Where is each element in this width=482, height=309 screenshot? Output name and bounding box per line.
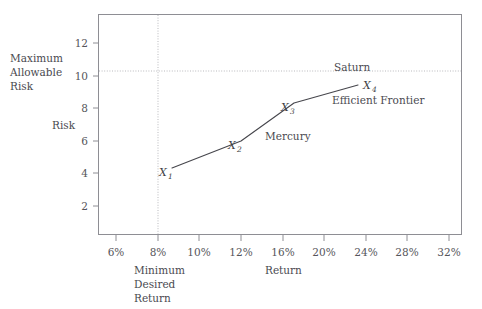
x3-subscript: 3 [290,107,295,116]
x-tick-label-32: 32% [437,246,460,258]
x-tick-label-12: 12% [229,246,252,258]
y-tick-label-12: 12 [75,37,88,49]
x2-label: X [227,139,237,152]
x-tick-label-6: 6% [108,246,125,258]
x1-subscript: 1 [168,172,173,181]
x-axis-ticks [116,235,449,241]
data-point-label-x4: X 4 [362,79,377,94]
x-tick-label-20: 20% [312,246,335,258]
saturn-label: Saturn [334,61,370,73]
x-tick-label-28: 28% [395,246,418,258]
min-return-line-2: Desired [134,278,176,290]
max-risk-line-1: Maximum [10,52,63,64]
data-point-label-x1: X 1 [158,166,173,181]
x-tick-label-16: 16% [271,246,294,258]
y-tick-label-2: 2 [81,200,88,212]
x-tick-label-24: 24% [354,246,377,258]
x4-subscript: 4 [371,85,377,94]
x1-label: X [158,166,168,179]
x3-label: X [280,101,290,114]
y-tick-label-8: 8 [81,102,88,114]
min-return-line-3: Return [134,292,171,304]
y-tick-label-10: 10 [75,70,88,82]
y-tick-label-4: 4 [81,167,88,179]
efficient-frontier-chart: 12 10 8 6 4 2 6% 8% 10% 12% 16% 20% 24% … [0,0,482,309]
max-risk-line-2: Allowable [9,66,62,78]
x-axis-title: Return [265,264,302,276]
min-return-line-1: Minimum [134,264,185,276]
minimum-desired-return-annotation: Minimum Desired Return [134,264,185,304]
plot-frame [99,15,462,235]
efficient-frontier-label: Efficient Frontier [332,94,425,106]
y-tick-label-6: 6 [81,135,88,147]
x4-label: X [362,79,372,92]
maximum-allowable-risk-annotation: Maximum Allowable Risk [9,52,63,92]
x2-subscript: 2 [236,145,242,154]
x-tick-label-10: 10% [187,246,210,258]
max-risk-line-3: Risk [10,80,34,92]
mercury-label: Mercury [265,130,311,142]
efficient-frontier-line [172,85,358,168]
y-axis-title: Risk [52,119,76,131]
x-tick-label-8: 8% [150,246,167,258]
